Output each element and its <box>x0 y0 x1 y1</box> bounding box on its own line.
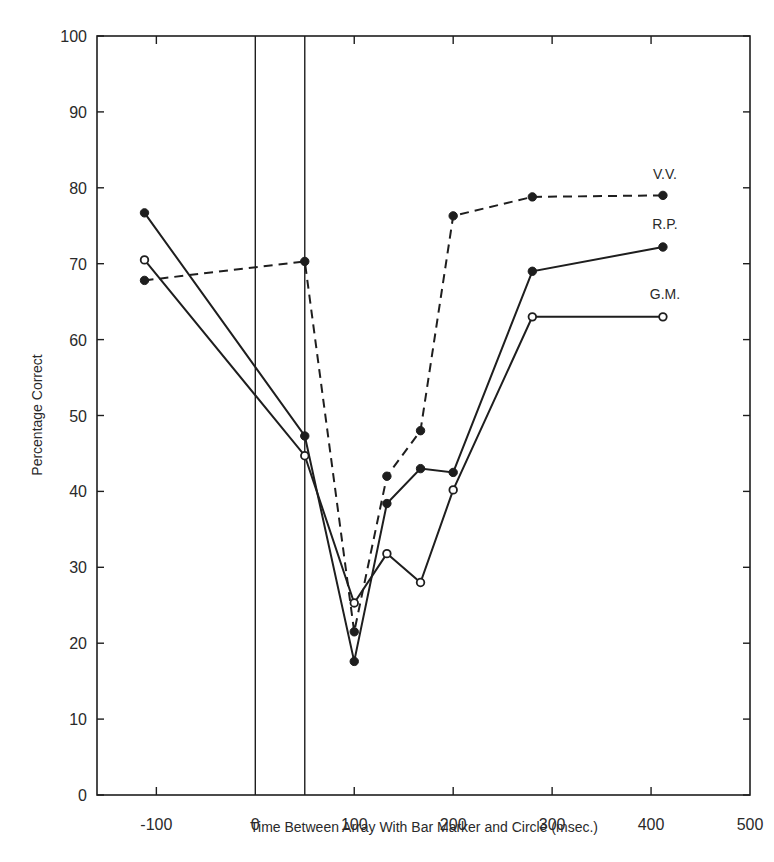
open-circle-marker <box>449 486 457 494</box>
filled-circle-marker <box>416 464 424 472</box>
filled-circle-marker <box>140 276 148 284</box>
reference-lines <box>255 36 304 795</box>
x-axis-ticks: -1000100200300400500 <box>140 36 763 833</box>
series-gm: G.M. <box>141 256 680 607</box>
x-tick-label: 400 <box>638 816 665 833</box>
data-series: V.V.R.P.G.M. <box>140 166 680 665</box>
open-circle-marker <box>417 579 425 587</box>
filled-circle-marker <box>659 243 667 251</box>
y-tick-label: 100 <box>60 28 87 45</box>
y-tick-label: 70 <box>69 256 87 273</box>
open-circle-marker <box>301 452 309 460</box>
series-label: V.V. <box>653 166 677 182</box>
filled-circle-marker <box>383 472 391 480</box>
line-chart: 0102030405060708090100 -1000100200300400… <box>0 0 774 862</box>
series-line <box>145 260 663 603</box>
y-tick-label: 40 <box>69 483 87 500</box>
filled-circle-marker <box>301 257 309 265</box>
filled-circle-marker <box>659 191 667 199</box>
filled-circle-marker <box>140 209 148 217</box>
series-rp: R.P. <box>140 209 677 666</box>
x-tick-label: -100 <box>140 816 172 833</box>
series-vv: V.V. <box>140 166 677 636</box>
filled-circle-marker <box>301 432 309 440</box>
open-circle-marker <box>141 256 149 264</box>
y-axis-title: Percentage Correct <box>29 354 45 476</box>
y-tick-label: 60 <box>69 332 87 349</box>
y-tick-label: 80 <box>69 180 87 197</box>
filled-circle-marker <box>449 212 457 220</box>
x-tick-label: 500 <box>737 816 764 833</box>
open-circle-marker <box>383 550 391 558</box>
filled-circle-marker <box>528 193 536 201</box>
x-axis-title: Time Between Array With Bar Marker and C… <box>250 819 598 835</box>
open-circle-marker <box>529 313 537 321</box>
y-tick-label: 90 <box>69 104 87 121</box>
filled-circle-marker <box>416 426 424 434</box>
series-line <box>145 213 663 662</box>
y-tick-label: 20 <box>69 635 87 652</box>
filled-circle-marker <box>350 628 358 636</box>
filled-circle-marker <box>528 267 536 275</box>
filled-circle-marker <box>449 468 457 476</box>
y-tick-label: 30 <box>69 559 87 576</box>
series-label: G.M. <box>650 286 680 302</box>
y-tick-label: 10 <box>69 711 87 728</box>
y-axis-ticks: 0102030405060708090100 <box>60 28 750 804</box>
y-tick-label: 50 <box>69 408 87 425</box>
open-circle-marker <box>659 313 667 321</box>
filled-circle-marker <box>383 499 391 507</box>
series-label: R.P. <box>652 216 677 232</box>
open-circle-marker <box>350 599 358 607</box>
filled-circle-marker <box>350 657 358 665</box>
y-tick-label: 0 <box>78 787 87 804</box>
